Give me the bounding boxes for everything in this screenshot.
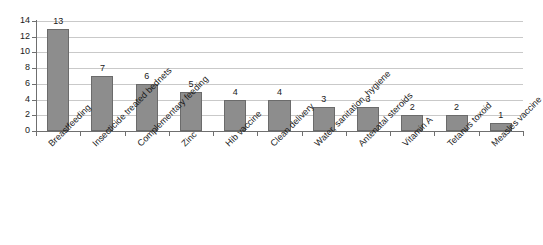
y-tick-mark-8 xyxy=(32,68,36,69)
x-tick-mark-3 xyxy=(169,132,170,136)
x-tick-mark-10 xyxy=(479,132,480,136)
x-tick-mark-11 xyxy=(523,132,524,136)
x-tick-mark-8 xyxy=(390,132,391,136)
y-axis-tick-label: 12 xyxy=(20,32,30,41)
y-tick-mark-4 xyxy=(32,100,36,101)
y-tick-label-wrap: 4 xyxy=(0,95,30,104)
y-tick-label-wrap: 6 xyxy=(0,79,30,88)
y-axis-line xyxy=(36,20,37,132)
y-tick-label-wrap: 14 xyxy=(0,16,30,25)
y-tick-mark-12 xyxy=(32,37,36,38)
x-tick-mark-5 xyxy=(257,132,258,136)
bar-value-label: 13 xyxy=(36,17,80,26)
x-tick-mark-7 xyxy=(346,132,347,136)
y-axis-tick-label: 10 xyxy=(20,47,30,56)
y-tick-label-wrap: 8 xyxy=(0,63,30,72)
x-tick-mark-6 xyxy=(302,132,303,136)
x-tick-mark-0 xyxy=(36,132,37,136)
bar-value-label: 4 xyxy=(213,88,257,97)
y-axis-tick-label: 4 xyxy=(25,95,30,104)
y-tick-label-wrap: 0 xyxy=(0,126,30,135)
bar-value-label: 4 xyxy=(257,88,301,97)
y-axis-tick-label: 2 xyxy=(25,110,30,119)
y-axis-tick-label: 6 xyxy=(25,79,30,88)
gridline-14 xyxy=(36,21,523,22)
y-tick-label-wrap: 2 xyxy=(0,110,30,119)
y-axis-tick-label: 14 xyxy=(20,16,30,25)
y-tick-mark-6 xyxy=(32,84,36,85)
y-axis-tick-label: 0 xyxy=(25,126,30,135)
x-tick-mark-1 xyxy=(80,132,81,136)
y-tick-mark-2 xyxy=(32,115,36,116)
y-tick-label-wrap: 10 xyxy=(0,47,30,56)
gridline-12 xyxy=(36,37,523,38)
x-tick-mark-4 xyxy=(213,132,214,136)
bar-value-label: 2 xyxy=(434,103,478,112)
y-tick-mark-10 xyxy=(32,52,36,53)
bar xyxy=(47,29,69,131)
x-tick-mark-9 xyxy=(434,132,435,136)
x-tick-mark-2 xyxy=(125,132,126,136)
y-tick-label-wrap: 12 xyxy=(0,32,30,41)
gridline-10 xyxy=(36,52,523,53)
y-axis-tick-label: 8 xyxy=(25,63,30,72)
bar-value-label: 7 xyxy=(80,64,124,73)
x-axis-category-label: Zinc xyxy=(179,129,198,148)
